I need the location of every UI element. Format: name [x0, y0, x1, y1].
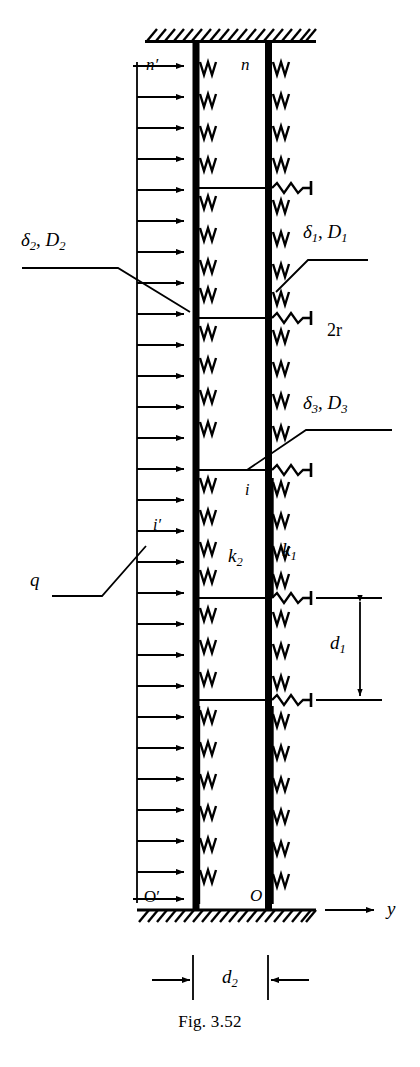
label-i-prime: i′ — [153, 517, 161, 533]
figure-canvas: n′ n i′ i q 2r k1 k2 d1 d2 O′ O y δ1, D1… — [0, 0, 420, 1067]
label-origin-left: O′ — [144, 888, 160, 905]
label-origin-right: O — [250, 887, 262, 904]
label-k1: k1 — [282, 540, 297, 562]
lateral-spring-1 — [272, 181, 311, 195]
label-i: i — [245, 482, 249, 498]
label-delta1-D1: δ1, D1 — [303, 222, 348, 244]
lateral-spring-2 — [272, 311, 311, 325]
lateral-spring-5 — [272, 693, 311, 707]
label-q: q — [30, 570, 40, 589]
label-axis-y: y — [387, 899, 395, 918]
label-delta2-D2: δ2, D2 — [21, 230, 66, 252]
leader-line-delta2 — [22, 268, 190, 312]
lateral-springs — [272, 181, 311, 707]
structural-diagram-svg — [0, 0, 420, 1067]
dimension-d1 — [316, 598, 382, 700]
label-delta3-D3: δ3, D3 — [303, 393, 348, 415]
label-d2: d2 — [222, 967, 238, 989]
lateral-spring-3 — [272, 463, 311, 477]
figure-caption: Fig. 3.52 — [0, 1012, 420, 1032]
label-k2: k2 — [228, 546, 243, 568]
top-fixed-support — [145, 29, 316, 42]
bottom-fixed-support — [137, 910, 316, 922]
label-d1: d1 — [330, 633, 346, 655]
leader-line-q — [52, 546, 146, 596]
lateral-spring-4 — [272, 591, 311, 605]
label-n-prime: n′ — [146, 56, 158, 73]
column-1-member — [265, 41, 272, 910]
label-2r: 2r — [327, 321, 342, 339]
label-n: n — [241, 56, 250, 73]
distributed-load-arrows — [137, 62, 184, 903]
